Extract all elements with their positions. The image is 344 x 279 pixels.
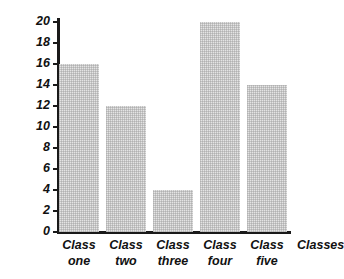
y-tick-label: 20 [36, 14, 50, 29]
bar [200, 22, 240, 232]
y-tick-label: 14 [36, 77, 50, 92]
y-tick-label: 8 [43, 140, 50, 155]
x-axis-label: Classthree [147, 238, 199, 269]
x-axis-label-line: Class [241, 238, 293, 254]
x-axis-label-line: Class [147, 238, 199, 254]
y-tick-label: 18 [36, 35, 50, 50]
x-axis-label: Classfive [241, 238, 293, 269]
x-axis-label-line: one [53, 254, 105, 270]
y-tick-label: 16 [36, 56, 50, 71]
x-axis-label-line: Class [100, 238, 152, 254]
x-axis-label-line: three [147, 254, 199, 270]
x-axis-label-line: Class [53, 238, 105, 254]
plot-area [59, 22, 291, 232]
x-axis-label-line: five [241, 254, 293, 270]
x-axis-label: Classfour [194, 238, 246, 269]
x-axis-label-line: two [100, 254, 152, 270]
x-axis-label: Classtwo [100, 238, 152, 269]
y-tick-label: 0 [43, 224, 50, 239]
y-tick-label: 4 [43, 182, 50, 197]
bar [106, 106, 146, 232]
x-axis-label-line: four [194, 254, 246, 270]
x-axis-label-line: Class [194, 238, 246, 254]
y-tick-label: 10 [36, 119, 50, 134]
y-tick-label: 6 [43, 161, 50, 176]
bar [247, 85, 287, 232]
bar [153, 190, 193, 232]
x-axis-title: Classes [297, 238, 344, 252]
y-tick-label: 12 [36, 98, 50, 113]
bar [59, 64, 99, 232]
x-axis-label: Classone [53, 238, 105, 269]
y-tick-label: 2 [43, 203, 50, 218]
